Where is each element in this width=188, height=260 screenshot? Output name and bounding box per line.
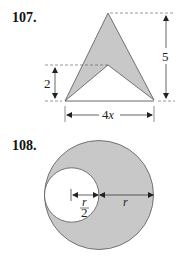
arrowhead-shape <box>65 13 154 101</box>
inner-radius-denominator: 2 <box>81 205 88 220</box>
width-label: 4x <box>102 107 115 122</box>
problem-107: 107. 5 2 4x <box>12 10 175 122</box>
problem-number-107: 107. <box>12 10 37 25</box>
outer-radius-label: r <box>123 195 128 209</box>
problem-number-108: 108. <box>12 138 37 153</box>
problem-108: 108. r 2 r <box>12 138 154 250</box>
height-2-label: 2 <box>44 76 51 91</box>
height-5-label: 5 <box>162 49 169 64</box>
figure-canvas: 107. 5 2 4x 108. <box>0 0 188 260</box>
